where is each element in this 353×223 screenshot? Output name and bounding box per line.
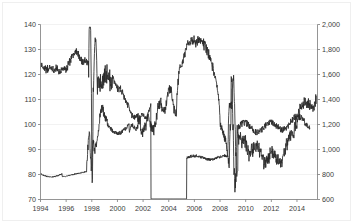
x-axis-tick-label: 1996	[58, 204, 74, 213]
right-axis-tick-label: 1,200	[322, 120, 340, 129]
chart-container: 7080901001101201301406008001,0001,2001,4…	[0, 0, 353, 223]
right-axis-tick-label: 1,400	[322, 95, 340, 104]
left-axis-tick-label: 70	[28, 195, 36, 204]
x-axis-tick-label: 1998	[84, 204, 100, 213]
x-axis-tick-label: 2002	[135, 204, 151, 213]
line-chart-plot: 7080901001101201301406008001,0001,2001,4…	[0, 0, 353, 223]
right-axis-tick-label: 1,800	[322, 45, 340, 54]
right-axis-tick-label: 600	[322, 195, 334, 204]
gridlines-group	[41, 25, 318, 175]
x-axis-tick-label: 2004	[161, 204, 177, 213]
x-axis-tick-label: 2008	[212, 204, 228, 213]
left-axis-tick-label: 130	[24, 45, 36, 54]
left-axis-tick-label: 110	[25, 95, 36, 104]
right-axis-tick-label: 2,000	[322, 20, 340, 29]
series-clip-group	[41, 27, 317, 199]
axes-group	[38, 25, 320, 203]
series-line-upper	[41, 27, 317, 192]
x-axis-tick-label: 1994	[33, 204, 49, 213]
x-axis-tick-label: 2014	[289, 204, 305, 213]
x-axis-tick-label: 2000	[109, 204, 125, 213]
series-group	[41, 27, 317, 199]
left-axis-tick-label: 140	[24, 20, 36, 29]
x-axis-tick-label: 2006	[186, 204, 202, 213]
left-axis-tick-label: 80	[28, 170, 36, 179]
left-axis-tick-label: 100	[24, 120, 36, 129]
right-axis-tick-label: 1,000	[322, 145, 340, 154]
x-axis-tick-label: 2010	[238, 204, 254, 213]
x-axis-tick-label: 2012	[263, 204, 279, 213]
left-axis-tick-label: 90	[28, 145, 36, 154]
tick-labels-group: 7080901001101201301406008001,0001,2001,4…	[24, 20, 340, 213]
left-axis-tick-label: 120	[24, 70, 36, 79]
right-axis-tick-label: 800	[322, 170, 334, 179]
series-line-lower	[41, 75, 310, 199]
right-axis-tick-label: 1,600	[322, 70, 340, 79]
